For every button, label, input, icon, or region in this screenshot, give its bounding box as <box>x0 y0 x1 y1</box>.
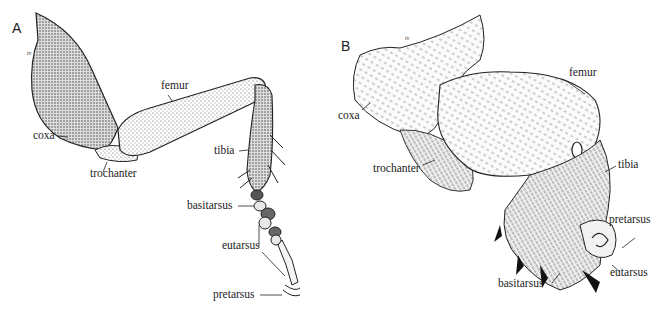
pretarsus-segment <box>278 240 298 285</box>
tv-mark-a: tv <box>27 50 31 56</box>
label-coxa-b: coxa <box>338 110 360 122</box>
panel-b-broad-leg: B tv coxa femur trochanter tibia basitar… <box>330 0 666 311</box>
femur-shape <box>118 78 266 156</box>
tv-mark-b: tv <box>405 35 409 41</box>
label-basitarsus-a: basitarsus <box>187 200 232 212</box>
label-pretarsus-a: pretarsus <box>213 289 255 301</box>
label-tibia-a: tibia <box>214 145 234 157</box>
panel-a-slender-leg: A tv coxa femur trochanter tibia basitar… <box>0 0 330 311</box>
leg-illustration-b <box>330 0 666 311</box>
label-femur-a: femur <box>161 80 188 92</box>
claw <box>283 285 300 296</box>
label-trochanter-a: trochanter <box>90 168 137 180</box>
panel-letter-a: A <box>12 20 21 36</box>
label-coxa-a: coxa <box>33 130 55 142</box>
label-pretarsus-b: pretarsus <box>609 214 651 226</box>
label-eutarsus-b: eutarsus <box>610 267 648 279</box>
panel-letter-b: B <box>341 38 350 54</box>
label-tibia-b: tibia <box>618 159 638 171</box>
leg-illustration-a <box>0 0 330 311</box>
label-basitarsus-b: basitarsus <box>498 278 543 290</box>
label-femur-b: femur <box>569 67 596 79</box>
label-eutarsus-a: eutarsus <box>222 240 260 252</box>
label-trochanter-b: trochanter <box>373 163 420 175</box>
